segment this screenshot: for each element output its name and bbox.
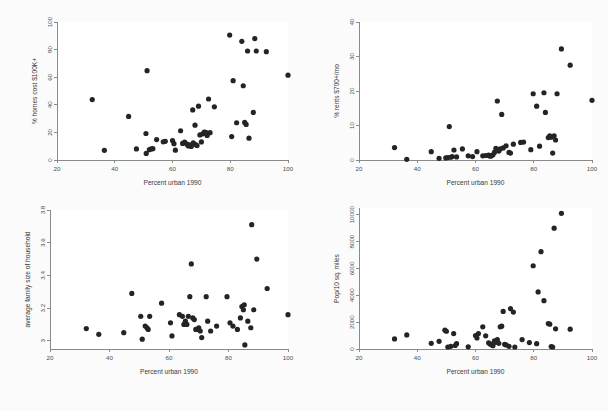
data-point: [436, 156, 441, 161]
data-point: [198, 328, 203, 333]
data-point: [102, 148, 107, 153]
data-point: [550, 344, 555, 349]
x-tick-label: 40: [111, 165, 118, 172]
data-point: [129, 291, 134, 296]
data-point: [242, 302, 247, 307]
data-point: [190, 107, 195, 112]
y-tick-label: 0: [348, 347, 355, 351]
data-point: [249, 222, 254, 227]
data-point: [134, 146, 139, 151]
data-point: [511, 309, 516, 314]
data-point: [547, 322, 552, 327]
data-point: [146, 327, 151, 332]
data-point: [194, 143, 199, 148]
data-point: [554, 91, 559, 96]
data-point: [229, 134, 234, 139]
x-tick-label: 80: [225, 354, 232, 361]
data-point: [206, 96, 211, 101]
data-point: [541, 298, 546, 303]
data-point: [429, 149, 434, 154]
data-point: [501, 309, 506, 314]
data-point: [503, 143, 508, 148]
data-point: [140, 337, 145, 342]
x-tick-label: 60: [472, 354, 479, 361]
x-tick-label: 60: [472, 165, 479, 172]
y-tick-label: 3.2: [39, 303, 46, 312]
y-tick-label: 3.8: [39, 205, 46, 214]
data-point: [454, 154, 459, 159]
data-point: [239, 39, 244, 44]
data-point: [84, 326, 89, 331]
data-point: [192, 317, 197, 322]
data-point: [534, 104, 539, 109]
x-tick-label: 80: [530, 165, 537, 172]
data-point: [208, 328, 213, 333]
data-point: [187, 294, 192, 299]
data-point: [245, 319, 250, 324]
data-point: [184, 322, 189, 327]
data-point: [241, 307, 246, 312]
y-tick-label: 60: [46, 73, 53, 80]
data-point: [499, 324, 504, 329]
y-tick-label: 4000: [348, 288, 355, 302]
data-point: [251, 110, 256, 115]
data-point: [227, 33, 232, 38]
scatter-panel-pop-density: 020004000600080001000020406080100Percent…: [304, 205, 608, 410]
data-point: [96, 332, 101, 337]
data-point: [474, 149, 479, 154]
data-point: [251, 307, 256, 312]
x-tick-label: 100: [283, 354, 294, 361]
y-tick-label: 10000: [348, 206, 355, 224]
data-point: [189, 261, 194, 266]
x-tick-label: 100: [283, 165, 294, 172]
data-point: [246, 136, 251, 141]
data-point: [454, 341, 459, 346]
y-tick-label: 20: [46, 128, 53, 135]
data-point: [483, 333, 488, 338]
data-point: [265, 286, 270, 291]
data-point: [466, 344, 471, 349]
data-point: [512, 344, 517, 349]
data-point: [244, 122, 249, 127]
data-point: [511, 142, 516, 147]
data-point: [553, 137, 558, 142]
y-tick-label: 3.6: [39, 238, 46, 247]
data-point: [168, 320, 173, 325]
data-point: [538, 249, 543, 254]
data-point: [126, 114, 131, 119]
data-point: [528, 147, 533, 152]
y-axis-title: average family size of household: [24, 231, 32, 327]
data-point: [506, 344, 511, 349]
data-point: [214, 324, 219, 329]
data-point: [537, 144, 542, 149]
data-point: [436, 339, 441, 344]
x-axis-title: Percent urban 1990: [144, 179, 202, 186]
scatter-panel-homes-cost: 02040608010020406080100Percent urban 199…: [0, 0, 304, 205]
data-point: [451, 147, 456, 152]
y-tick-label: 40: [46, 101, 53, 108]
data-point: [568, 63, 573, 68]
x-tick-label: 100: [587, 165, 598, 172]
data-point: [285, 312, 290, 317]
y-tick-label: 80: [46, 46, 53, 53]
data-point: [231, 78, 236, 83]
data-point: [150, 146, 155, 151]
y-tick-label: 100: [46, 16, 53, 27]
data-point: [178, 128, 183, 133]
x-tick-label: 20: [356, 354, 363, 361]
x-tick-label: 60: [166, 354, 173, 361]
x-tick-label: 20: [54, 165, 61, 172]
data-point: [207, 130, 212, 135]
x-tick-label: 20: [356, 165, 363, 172]
data-point: [192, 123, 197, 128]
x-axis-title: Percent urban 1990: [447, 179, 505, 186]
data-point: [241, 83, 246, 88]
data-point: [212, 104, 217, 109]
data-point: [550, 151, 555, 156]
data-point: [392, 336, 397, 341]
data-point: [144, 68, 149, 73]
data-point: [448, 344, 453, 349]
data-point: [568, 327, 573, 332]
y-tick-label: 40: [348, 18, 355, 25]
data-point: [531, 91, 536, 96]
